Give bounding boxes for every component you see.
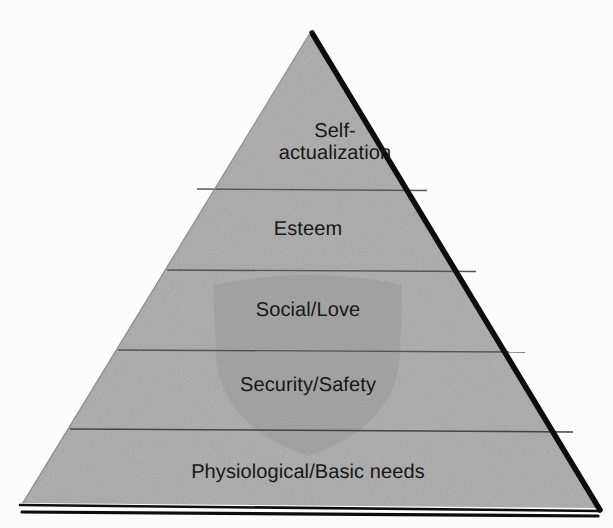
pyramid-figure: Self-actualization Esteem Social/Love Se… xyxy=(0,0,613,528)
pyramid-base-edge-lower xyxy=(22,512,598,516)
pyramid-body xyxy=(20,33,600,516)
pyramid-diagram xyxy=(0,0,613,528)
